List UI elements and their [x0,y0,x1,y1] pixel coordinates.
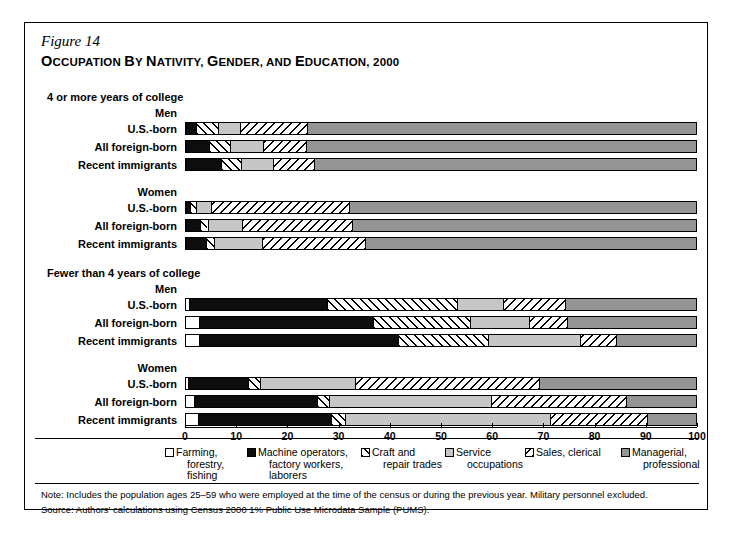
x-axis-tick-label: 100 [677,430,717,442]
bar-segment-service[interactable] [345,414,550,425]
bar-segment-managerial[interactable] [314,159,697,170]
stacked-bar[interactable] [185,298,697,311]
bar-segment-craft[interactable] [317,396,330,407]
bar-segment-farming[interactable] [186,317,199,328]
bar-segment-craft[interactable] [196,123,218,134]
legend-swatch-machine-icon [247,448,256,457]
stacked-bar[interactable] [185,201,697,214]
bar-segment-sales[interactable] [263,141,307,152]
bar-segment-sales[interactable] [262,238,364,249]
bar-segment-service[interactable] [260,378,355,389]
stacked-bar[interactable] [185,316,697,329]
footnote-note: Note: Includes the population ages 25–59… [41,489,648,500]
bar-segment-managerial[interactable] [539,378,697,389]
stacked-bar[interactable] [185,377,697,390]
legend-item-sales[interactable]: Sales, clerical [525,447,601,459]
bar-segment-farming[interactable] [186,396,194,407]
legend-item-service[interactable]: Serviceoccupations [445,447,523,470]
bar-segment-craft[interactable] [209,141,229,152]
bar-segment-machine[interactable] [186,220,200,231]
bar-segment-machine[interactable] [188,378,248,389]
legend-item-managerial[interactable]: Managerial,professional [621,447,700,470]
bar-segment-managerial[interactable] [626,396,697,407]
bar-segment-service[interactable] [218,123,240,134]
stacked-bar[interactable] [185,334,697,347]
bar-segment-sales[interactable] [491,396,627,407]
x-axis-tick [543,423,544,427]
bar-segment-service[interactable] [329,396,490,407]
bar-segment-machine[interactable] [186,238,206,249]
stacked-bar[interactable] [185,140,697,153]
bar-segment-sales[interactable] [211,202,349,213]
bar-segment-service[interactable] [457,299,503,310]
bar-segment-machine[interactable] [198,414,331,425]
bar-segment-managerial[interactable] [307,123,697,134]
bar-segment-service[interactable] [470,317,529,328]
bar-segment-managerial[interactable] [349,202,697,213]
bar-segment-craft[interactable] [248,378,260,389]
bar-segment-managerial[interactable] [306,141,697,152]
figure-frame: Figure 14 OCCUPATION BY NATIVITY, GENDER… [24,22,708,510]
bar-segment-service[interactable] [241,159,273,170]
bar-segment-sales[interactable] [529,317,567,328]
legend-label-sales: Sales, clerical [536,447,601,459]
row-label-u-s-born: U.S.-born [25,202,177,214]
row-label-recent-immigrants: Recent immigrants [25,335,177,347]
bar-segment-craft[interactable] [206,238,213,249]
bar-segment-sales[interactable] [503,299,564,310]
row-label-u-s-born: U.S.-born [25,299,177,311]
bar-segment-service[interactable] [230,141,263,152]
stacked-bar[interactable] [185,158,697,171]
bar-segment-managerial[interactable] [352,220,697,231]
bar-segment-service[interactable] [214,238,263,249]
row-label-recent-immigrants: Recent immigrants [25,238,177,250]
row-label-all-foreign-born: All foreign-born [25,317,177,329]
stacked-bar[interactable] [185,122,697,135]
x-axis-tick-label: 20 [267,430,307,442]
bar-segment-farming[interactable] [186,335,199,346]
bar-segment-machine[interactable] [186,159,221,170]
footnote-source: Source: Authors' calculations using Cens… [41,504,429,515]
legend-swatch-service-icon [445,448,454,457]
bar-segment-machine[interactable] [199,335,399,346]
bar-segment-managerial[interactable] [616,335,697,346]
bar-segment-sales[interactable] [273,159,314,170]
bar-segment-managerial[interactable] [365,238,697,249]
x-axis-tick-label: 10 [216,430,256,442]
stacked-bar[interactable] [185,237,697,250]
bar-segment-machine[interactable] [199,317,373,328]
legend-item-machine[interactable]: Machine operators,factory workers,labore… [247,447,348,482]
x-axis-tick [185,423,186,427]
bar-segment-service[interactable] [196,202,210,213]
x-axis-tick-label: 40 [370,430,410,442]
bar-segment-craft[interactable] [373,317,470,328]
bar-segment-machine[interactable] [186,123,196,134]
bar-segment-sales[interactable] [240,123,307,134]
bar-segment-managerial[interactable] [647,414,697,425]
legend-item-craft[interactable]: Craft andrepair trades [361,447,442,470]
bar-segment-managerial[interactable] [565,299,697,310]
bar-segment-managerial[interactable] [567,317,697,328]
stacked-bar[interactable] [185,219,697,232]
bar-segment-machine[interactable] [189,299,327,310]
bar-segment-sales[interactable] [550,414,647,425]
bar-segment-sales[interactable] [242,220,352,231]
bar-segment-sales[interactable] [580,335,616,346]
bar-segment-machine[interactable] [194,396,317,407]
bar-segment-farming[interactable] [186,414,198,425]
x-axis-tick-label: 0 [165,430,205,442]
bar-segment-craft[interactable] [200,220,207,231]
legend-item-farming[interactable]: Farming,forestry,fishing [165,447,224,482]
bar-segment-craft[interactable] [398,335,488,346]
footnote-divider [35,438,699,439]
row-label-u-s-born: U.S.-born [25,378,177,390]
stacked-bar[interactable] [185,395,697,408]
bar-segment-sales[interactable] [355,378,539,389]
bar-segment-craft[interactable] [221,159,241,170]
legend-label-craft: Craft andrepair trades [372,447,442,470]
bar-segment-machine[interactable] [186,141,209,152]
bar-segment-craft[interactable] [327,299,458,310]
bar-segment-service[interactable] [488,335,580,346]
bar-segment-service[interactable] [208,220,243,231]
panel-heading-2: Fewer than 4 years of college [47,267,200,279]
